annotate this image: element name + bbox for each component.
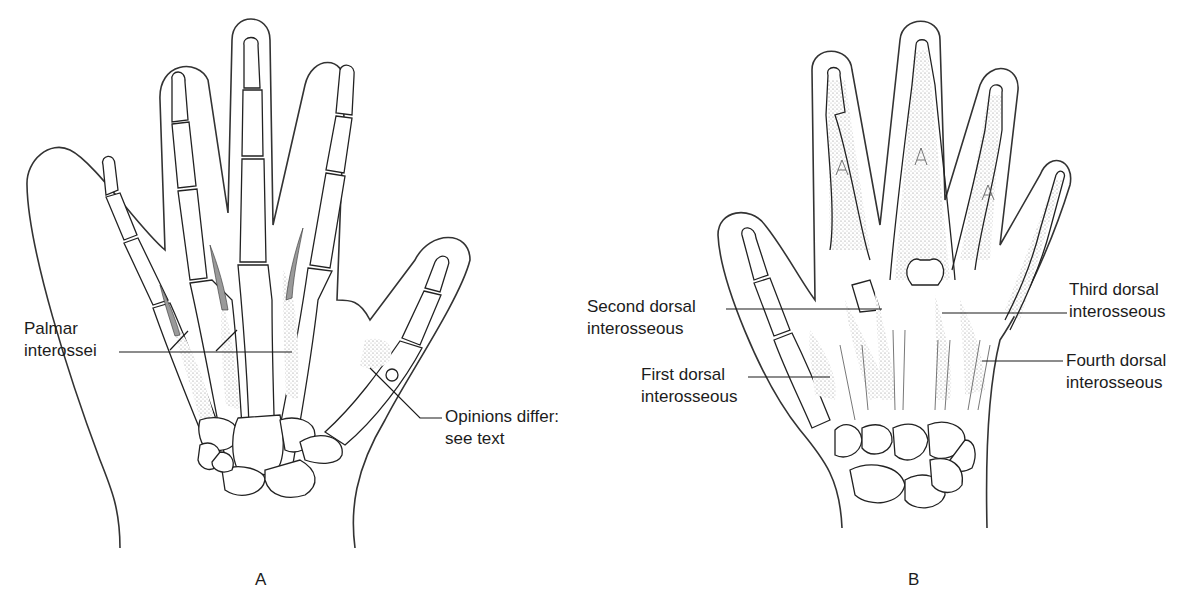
label-second-dorsal-interosseous: Second dorsal interosseous bbox=[587, 296, 696, 340]
hand-b-carpals bbox=[835, 422, 975, 508]
label-palmar-interossei: Palmar interossei bbox=[24, 318, 97, 362]
label-first-dorsal-interosseous: First dorsal interosseous bbox=[641, 364, 737, 408]
hand-a-palmar bbox=[27, 19, 470, 548]
panel-letter-a: A bbox=[255, 570, 266, 590]
hand-a-carpals bbox=[198, 415, 342, 497]
dorsal-interossei-muscles bbox=[809, 290, 985, 400]
label-opinions-differ: Opinions differ: see text bbox=[445, 406, 559, 450]
index-finger-bones bbox=[272, 65, 354, 470]
label-fourth-dorsal-interosseous: Fourth dorsal interosseous bbox=[1066, 350, 1166, 394]
hand-interossei-figure: Palmar interossei Opinions differ: see t… bbox=[0, 0, 1204, 615]
hand-b-thumb-bones bbox=[742, 228, 830, 428]
hand-b-dorsal bbox=[718, 21, 1071, 528]
panel-letter-b: B bbox=[908, 570, 919, 590]
label-third-dorsal-interosseous: Third dorsal interosseous bbox=[1069, 279, 1165, 323]
